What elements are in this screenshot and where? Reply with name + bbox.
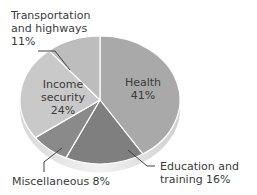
label-transportation-pct: 11% [11,35,90,48]
label-income-pct: 24% [33,104,93,117]
label-transportation-line1: Transportation [11,9,90,22]
label-transportation-line2: and highways [11,22,90,35]
label-income-line2: security [33,91,93,104]
label-health-pct: 41% [118,89,168,102]
label-health-name: Health [118,76,168,89]
label-transportation: Transportation and highways 11% [11,9,90,48]
label-misc-text: Miscellaneous 8% [12,175,110,188]
label-health: Health 41% [118,76,168,102]
label-education-line1: Education and [160,160,239,173]
label-miscellaneous: Miscellaneous 8% [12,175,110,188]
label-education-line2: training 16% [160,173,239,186]
label-income-line1: Income [33,78,93,91]
label-income-security: Income security 24% [33,78,93,117]
label-education: Education and training 16% [160,160,239,186]
